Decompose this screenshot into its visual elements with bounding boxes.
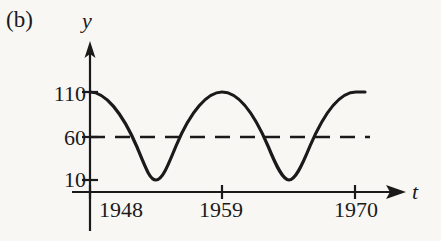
figure-panel: (b) y t 110 60 10 1948 1959 1970: [0, 0, 441, 241]
plot-area: [0, 0, 441, 241]
